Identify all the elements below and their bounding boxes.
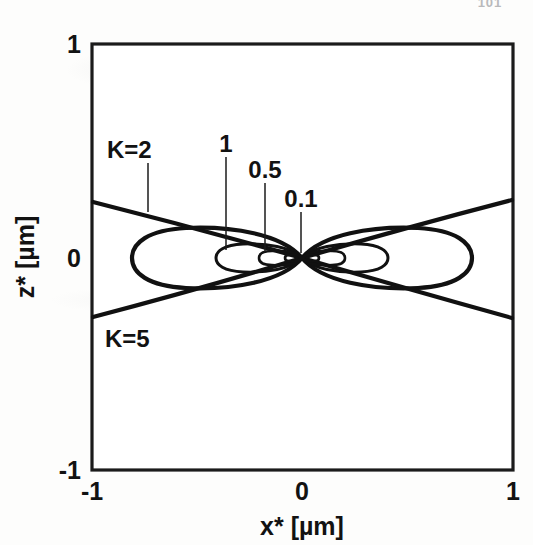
annotation-label-k-5: K=5 bbox=[105, 325, 150, 352]
annotation-label-05: 0.5 bbox=[248, 156, 281, 183]
x-tick-label-right: 1 bbox=[506, 477, 520, 505]
x-axis-title: x* [µm] bbox=[260, 512, 344, 540]
figure-container: K=2 1 0.5 0.1 K=5 1 0 -1 -1 0 1 x* [µm] … bbox=[0, 0, 533, 545]
y-tick-label-bottom: -1 bbox=[59, 456, 81, 484]
y-tick-label-top: 1 bbox=[67, 30, 81, 58]
x-tick-label-mid: 0 bbox=[295, 477, 309, 505]
y-axis-title: z* [µm] bbox=[11, 216, 39, 298]
x-tick-label-left: -1 bbox=[81, 477, 103, 505]
annotation-label-1: 1 bbox=[219, 130, 232, 157]
annotation-label-01: 0.1 bbox=[284, 185, 317, 212]
annotation-label-k-2: K=2 bbox=[107, 136, 152, 163]
y-tick-label-mid: 0 bbox=[67, 244, 81, 272]
